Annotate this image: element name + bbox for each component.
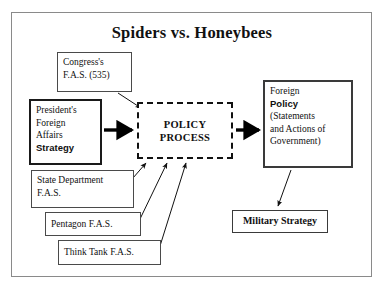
president-line-2: Foreign (36, 117, 95, 130)
foreign-policy-line-5: Government) (270, 135, 346, 148)
foreign-policy-line-2-policy: Policy (270, 98, 346, 111)
policy-process-line-1: POLICY (160, 118, 211, 131)
node-think-tank-fas[interactable]: Think Tank F.A.S. (58, 240, 161, 265)
pentagon-label: Pentagon F.A.S. (51, 218, 113, 231)
node-president-foreign-affairs-strategy[interactable]: President's Foreign Affairs Strategy (29, 99, 102, 165)
foreign-policy-line-4: and Actions of (270, 123, 346, 136)
node-pentagon-fas[interactable]: Pentagon F.A.S. (45, 212, 141, 236)
node-policy-process[interactable]: POLICY PROCESS (137, 102, 233, 159)
diagram-title: Spiders vs. Honeybees (0, 23, 384, 43)
node-military-strategy[interactable]: Military Strategy (232, 210, 328, 233)
congress-line-1: Congress's (63, 56, 126, 69)
president-line-1: President's (36, 104, 95, 117)
president-line-4-strategy: Strategy (36, 142, 95, 155)
foreign-policy-line-3: (Statements (270, 110, 346, 123)
diagram-canvas: Spiders vs. Honeybees Congress's F.A.S. … (0, 0, 384, 290)
think-tank-label: Think Tank F.A.S. (64, 246, 134, 259)
node-congress-fas[interactable]: Congress's F.A.S. (535) (57, 52, 132, 92)
state-department-line-1: State Department (37, 174, 128, 187)
node-foreign-policy[interactable]: Foreign Policy (Statements and Actions o… (263, 80, 353, 168)
foreign-policy-line-1: Foreign (270, 85, 346, 98)
president-line-3: Affairs (36, 129, 95, 142)
node-state-department-fas[interactable]: State Department F.A.S. (31, 170, 134, 208)
congress-line-2: F.A.S. (535) (63, 69, 126, 82)
military-strategy-label: Military Strategy (243, 215, 317, 228)
state-department-line-2: F.A.S. (37, 187, 128, 200)
policy-process-line-2: PROCESS (160, 131, 211, 144)
